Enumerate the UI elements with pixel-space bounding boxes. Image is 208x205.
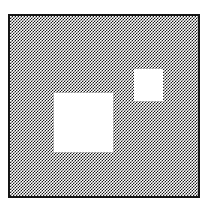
outer-square-frame <box>8 14 200 198</box>
graphic-canvas <box>0 0 208 205</box>
knockout-square-large <box>54 93 113 152</box>
knockout-square-small <box>134 69 163 101</box>
